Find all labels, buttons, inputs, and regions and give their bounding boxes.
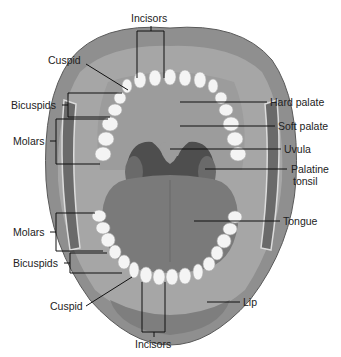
label-palatine-tonsil-1: Palatine	[291, 163, 329, 175]
label-incisors-bottom: Incisors	[135, 338, 171, 350]
label-bicuspids-top: Bicuspids	[11, 99, 56, 111]
label-cuspid-top: Cuspid	[48, 54, 81, 66]
label-palatine-tonsil-2: tonsil	[293, 175, 318, 187]
label-tongue: Tongue	[283, 215, 317, 227]
mouth-anatomy-diagram: Incisors Cuspid Bicuspids Molars Hard pa…	[0, 0, 341, 357]
label-cuspid-bottom: Cuspid	[50, 300, 83, 312]
label-lip: Lip	[243, 296, 257, 308]
label-molars-top: Molars	[13, 135, 45, 147]
label-soft-palate: Soft palate	[278, 120, 328, 132]
label-incisors-top: Incisors	[131, 12, 167, 24]
label-bicuspids-bottom: Bicuspids	[13, 257, 58, 269]
label-molars-bottom: Molars	[13, 226, 45, 238]
label-uvula: Uvula	[284, 143, 311, 155]
label-hard-palate: Hard palate	[270, 96, 324, 108]
